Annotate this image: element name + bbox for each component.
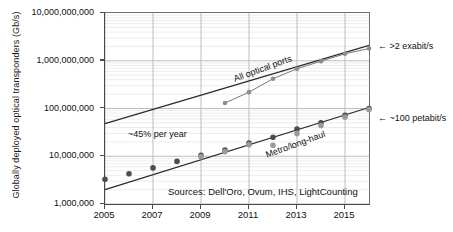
y-axis-tick-labels: 10,000,000,0001,000,000,000100,000,00010… xyxy=(0,0,100,232)
x-tick-mark xyxy=(296,205,297,209)
x-axis-tick-labels: 200520072009201120132015 xyxy=(0,207,453,231)
x-tick-mark xyxy=(344,205,345,209)
series-svg xyxy=(105,13,369,204)
y-tick-label: 10,000,000,000 xyxy=(31,7,94,17)
x-tick-label: 2015 xyxy=(333,209,354,220)
right-lower-callout: ← ~100 petabit/s xyxy=(378,113,446,123)
right-upper-callout: ← >2 exabit/s xyxy=(378,41,433,51)
x-tick-mark xyxy=(152,205,153,209)
x-tick-mark xyxy=(104,205,105,209)
chart-figure: Globally deployed optical transponders (… xyxy=(0,0,453,232)
x-tick-label: 2009 xyxy=(189,209,210,220)
x-tick-label: 2011 xyxy=(238,209,258,220)
y-tick-label: 100,000,000 xyxy=(44,103,94,113)
x-tick-mark xyxy=(200,205,201,209)
x-tick-mark xyxy=(248,205,249,209)
x-tick-label: 2007 xyxy=(141,209,162,220)
growth-rate-annotation: ~45% per year xyxy=(128,129,187,139)
plot-area xyxy=(104,12,370,205)
y-tick-label: 1,000,000,000 xyxy=(36,55,94,65)
sources-annotation: Sources: Dell'Oro, Ovum, IHS, LightCount… xyxy=(168,186,358,197)
y-tick-label: 10,000,000 xyxy=(49,150,94,160)
x-tick-label: 2013 xyxy=(285,209,306,220)
x-tick-label: 2005 xyxy=(93,209,114,220)
